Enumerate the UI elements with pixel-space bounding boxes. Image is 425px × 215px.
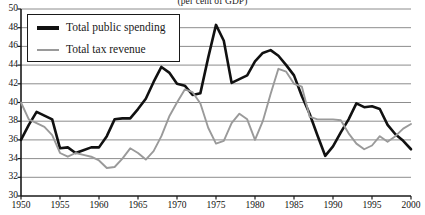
y-tick-46: 46 bbox=[0, 41, 18, 51]
legend-label-spending: Total public spending bbox=[66, 22, 166, 34]
x-tick-1995: 1995 bbox=[352, 201, 392, 211]
legend-item-total-public-spending: Total public spending bbox=[37, 18, 166, 38]
y-tick-44: 44 bbox=[0, 60, 18, 70]
y-tick-42: 42 bbox=[0, 79, 18, 89]
y-tick-32: 32 bbox=[0, 172, 18, 182]
x-tick-1950: 1950 bbox=[1, 201, 41, 211]
x-tick-1960: 1960 bbox=[79, 201, 119, 211]
y-tick-48: 48 bbox=[0, 23, 18, 33]
chart-container: (per cent of GDP) 3032343638404244464850… bbox=[0, 0, 425, 215]
x-tick-1970: 1970 bbox=[157, 201, 197, 211]
legend-label-revenue: Total tax revenue bbox=[66, 44, 146, 56]
x-tick-1985: 1985 bbox=[274, 201, 314, 211]
legend-swatch-icon-spending bbox=[37, 26, 59, 29]
legend-swatch-icon-revenue bbox=[37, 49, 59, 51]
y-tick-38: 38 bbox=[0, 116, 18, 126]
x-tick-1980: 1980 bbox=[235, 201, 275, 211]
x-tick-1990: 1990 bbox=[313, 201, 353, 211]
y-tick-36: 36 bbox=[0, 135, 18, 145]
x-tick-1975: 1975 bbox=[196, 201, 236, 211]
y-tick-34: 34 bbox=[0, 154, 18, 164]
y-tick-50: 50 bbox=[0, 4, 18, 14]
x-tick-2000: 2000 bbox=[391, 201, 425, 211]
x-tick-1965: 1965 bbox=[118, 201, 158, 211]
x-tick-1955: 1955 bbox=[40, 201, 80, 211]
chart-legend: Total public spending Total tax revenue bbox=[27, 14, 180, 62]
y-tick-40: 40 bbox=[0, 98, 18, 108]
legend-item-total-tax-revenue: Total tax revenue bbox=[37, 40, 146, 60]
